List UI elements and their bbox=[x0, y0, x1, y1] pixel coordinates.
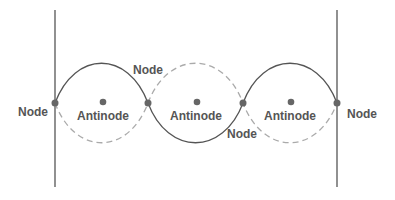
node-label-left: Node bbox=[18, 105, 48, 119]
antinode-label-2: Antinode bbox=[170, 109, 222, 123]
antinode-point-3 bbox=[288, 99, 295, 106]
node-point-1 bbox=[52, 100, 59, 107]
node-label-top: Node bbox=[133, 63, 163, 77]
node-point-2 bbox=[145, 100, 152, 107]
node-label-bottom: Node bbox=[227, 127, 257, 141]
antinode-label-3: Antinode bbox=[264, 109, 316, 123]
node-label-right: Node bbox=[347, 107, 377, 121]
node-point-4 bbox=[334, 100, 341, 107]
node-point-3 bbox=[240, 100, 247, 107]
antinode-point-1 bbox=[100, 99, 107, 106]
standing-wave-diagram: Node Node Node Node Antinode Antinode An… bbox=[0, 0, 395, 200]
antinode-point-2 bbox=[194, 99, 201, 106]
antinode-label-1: Antinode bbox=[77, 109, 129, 123]
